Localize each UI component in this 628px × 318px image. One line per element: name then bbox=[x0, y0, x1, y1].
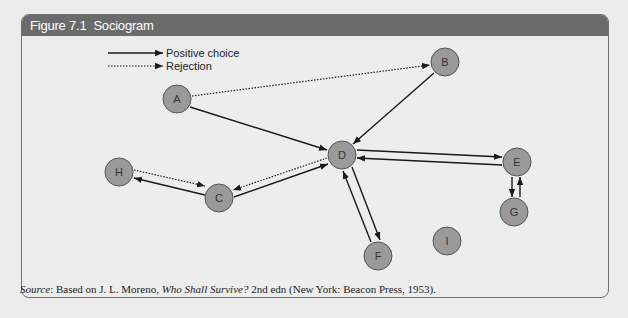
node-e: E bbox=[503, 148, 531, 176]
edge-d-c-rejection bbox=[233, 158, 327, 190]
edges bbox=[134, 65, 520, 242]
edge-c-h-positive bbox=[134, 178, 205, 195]
svg-text:C: C bbox=[215, 192, 223, 204]
svg-text:G: G bbox=[510, 206, 519, 218]
edge-d-e-positive bbox=[357, 150, 502, 157]
source-book-title: Who Shall Survive? bbox=[162, 283, 249, 295]
node-c: C bbox=[205, 184, 233, 212]
edge-c-d-positive bbox=[234, 164, 328, 197]
svg-text:F: F bbox=[375, 250, 382, 262]
svg-text:B: B bbox=[441, 56, 448, 68]
node-b: B bbox=[431, 48, 459, 76]
node-a: A bbox=[163, 85, 191, 113]
edge-e-d-positive bbox=[357, 158, 502, 165]
nodes: A B C D E F G H I bbox=[105, 48, 531, 270]
node-d: D bbox=[328, 141, 356, 169]
source-caption: Source: Based on J. L. Moreno, Who Shall… bbox=[20, 283, 436, 295]
svg-text:E: E bbox=[513, 156, 520, 168]
node-h: H bbox=[105, 158, 133, 186]
source-label: Source bbox=[20, 283, 50, 295]
node-i: I bbox=[433, 227, 461, 255]
edge-b-d-positive bbox=[353, 73, 434, 144]
source-text-after: 2nd edn (New York: Beacon Press, 1953). bbox=[248, 283, 436, 295]
source-text-before: : Based on J. L. Moreno, bbox=[50, 283, 162, 295]
svg-text:H: H bbox=[115, 166, 123, 178]
sociogram-diagram: Positive choice Rejection A B bbox=[0, 0, 628, 318]
svg-text:D: D bbox=[338, 149, 346, 161]
edge-a-b-rejection bbox=[192, 65, 430, 96]
legend-positive-label: Positive choice bbox=[166, 47, 239, 59]
node-f: F bbox=[364, 242, 392, 270]
legend: Positive choice Rejection bbox=[108, 47, 239, 72]
legend-rejection-label: Rejection bbox=[166, 60, 212, 72]
svg-text:I: I bbox=[445, 235, 448, 247]
edge-h-c-rejection bbox=[134, 170, 205, 186]
edge-a-d-positive bbox=[190, 107, 327, 150]
node-g: G bbox=[500, 198, 528, 226]
svg-text:A: A bbox=[173, 93, 181, 105]
